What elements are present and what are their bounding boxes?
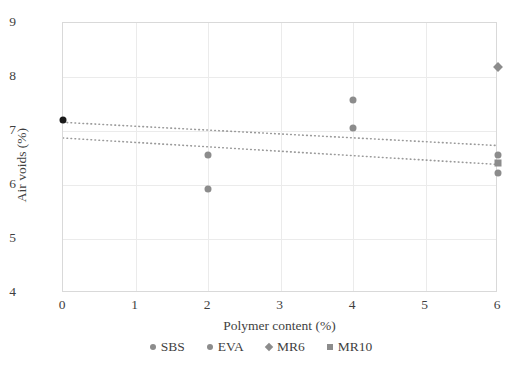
- data-point-sbs-x6: [495, 152, 502, 159]
- x-tick-label-3: 3: [268, 298, 292, 312]
- legend-item-eva[interactable]: EVA: [207, 340, 244, 354]
- x-axis-title: Polymer content (%): [62, 318, 497, 334]
- legend-item-mr10[interactable]: MR10: [327, 340, 373, 354]
- data-point-origin: [60, 117, 67, 124]
- x-tick-label-4: 4: [340, 298, 364, 312]
- x-tick-label-2: 2: [195, 298, 219, 312]
- data-point-eva-x2: [205, 185, 212, 192]
- x-tick-label-6: 6: [485, 298, 509, 312]
- chart-legend: SBSEVAMR6MR10: [0, 340, 522, 354]
- legend-item-sbs[interactable]: SBS: [150, 340, 185, 354]
- legend-label-sbs: SBS: [161, 340, 185, 354]
- legend-label-eva: EVA: [218, 340, 244, 354]
- diamond-marker-icon: [265, 343, 273, 351]
- y-tick-label-7: 7: [0, 123, 16, 137]
- circle-marker-icon: [207, 344, 213, 350]
- y-tick-label-9: 9: [0, 15, 16, 29]
- trendline-lower: [63, 138, 498, 164]
- x-tick-label-5: 5: [413, 298, 437, 312]
- y-tick-label-5: 5: [0, 231, 16, 245]
- plot-area: [62, 22, 497, 292]
- trendlines-svg: [63, 23, 498, 293]
- y-tick-label-8: 8: [0, 69, 16, 83]
- y-axis-title: Air voids (%): [14, 95, 30, 235]
- data-point-eva-x6: [495, 170, 502, 177]
- x-tick-label-1: 1: [123, 298, 147, 312]
- legend-item-mr6[interactable]: MR6: [266, 340, 305, 354]
- data-point-sbs-x2: [205, 152, 212, 159]
- data-point-sbs-x4: [350, 96, 357, 103]
- legend-label-mr6: MR6: [277, 340, 305, 354]
- x-tick-label-0: 0: [50, 298, 74, 312]
- data-point-eva-x4: [350, 125, 357, 132]
- scatter-chart-figure: Air voids (%) 456789 0123456 Polymer con…: [0, 0, 522, 373]
- y-tick-label-4: 4: [0, 285, 16, 299]
- data-point-mr10-x6: [495, 160, 502, 167]
- y-tick-label-6: 6: [0, 177, 16, 191]
- circle-marker-icon: [150, 344, 156, 350]
- square-marker-icon: [327, 344, 333, 350]
- legend-label-mr10: MR10: [338, 340, 373, 354]
